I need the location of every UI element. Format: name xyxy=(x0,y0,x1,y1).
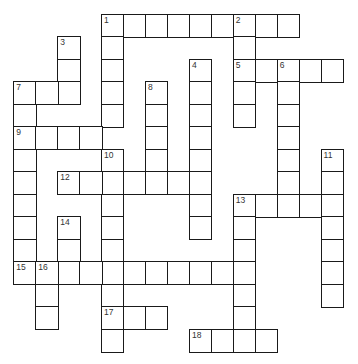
crossword-cell[interactable]: 10 xyxy=(101,149,124,173)
crossword-cell[interactable]: 12 xyxy=(57,171,80,195)
crossword-cell[interactable] xyxy=(277,104,300,128)
crossword-cell[interactable] xyxy=(79,171,102,195)
crossword-cell[interactable] xyxy=(233,284,256,308)
crossword-cell[interactable] xyxy=(255,14,278,38)
crossword-cell[interactable]: 16 xyxy=(35,261,58,285)
crossword-cell[interactable] xyxy=(101,171,124,195)
crossword-cell[interactable] xyxy=(123,306,146,330)
crossword-cell[interactable] xyxy=(79,261,102,285)
crossword-cell[interactable]: 6 xyxy=(277,59,300,83)
crossword-cell[interactable] xyxy=(277,126,300,150)
crossword-cell[interactable] xyxy=(13,149,36,173)
crossword-cell[interactable] xyxy=(255,329,278,353)
crossword-cell[interactable] xyxy=(57,81,80,105)
crossword-cell[interactable] xyxy=(35,126,58,150)
crossword-cell[interactable] xyxy=(13,194,36,218)
crossword-cell[interactable] xyxy=(145,149,168,173)
crossword-cell[interactable] xyxy=(145,171,168,195)
crossword-cell[interactable] xyxy=(255,59,278,83)
crossword-cell[interactable]: 18 xyxy=(189,329,212,353)
crossword-cell[interactable] xyxy=(189,194,212,218)
crossword-cell[interactable] xyxy=(145,104,168,128)
crossword-cell[interactable] xyxy=(145,261,168,285)
crossword-cell[interactable] xyxy=(233,329,256,353)
crossword-cell[interactable] xyxy=(277,194,300,218)
crossword-cell[interactable] xyxy=(277,81,300,105)
crossword-cell[interactable]: 7 xyxy=(13,81,36,105)
crossword-cell[interactable] xyxy=(321,284,344,308)
crossword-cell[interactable] xyxy=(189,81,212,105)
crossword-cell[interactable] xyxy=(321,194,344,218)
crossword-cell[interactable] xyxy=(189,104,212,128)
crossword-cell[interactable]: 15 xyxy=(13,261,36,285)
crossword-cell[interactable] xyxy=(79,126,102,150)
crossword-cell[interactable] xyxy=(57,59,80,83)
crossword-cell[interactable] xyxy=(101,239,124,263)
crossword-cell[interactable] xyxy=(277,171,300,195)
crossword-cell[interactable]: 1 xyxy=(101,14,124,38)
crossword-cell[interactable] xyxy=(299,194,322,218)
crossword-cell[interactable] xyxy=(277,14,300,38)
crossword-cell[interactable] xyxy=(13,239,36,263)
crossword-cell[interactable] xyxy=(321,261,344,285)
crossword-cell[interactable] xyxy=(123,14,146,38)
crossword-cell[interactable] xyxy=(101,36,124,60)
crossword-cell[interactable] xyxy=(211,329,234,353)
crossword-cell[interactable] xyxy=(277,149,300,173)
crossword-cell[interactable] xyxy=(101,261,124,285)
crossword-cell[interactable] xyxy=(145,126,168,150)
crossword-cell[interactable] xyxy=(123,171,146,195)
crossword-cell[interactable]: 8 xyxy=(145,81,168,105)
crossword-cell[interactable] xyxy=(211,261,234,285)
crossword-cell[interactable] xyxy=(101,329,124,353)
crossword-cell[interactable] xyxy=(167,14,190,38)
crossword-cell[interactable] xyxy=(189,14,212,38)
crossword-cell[interactable] xyxy=(233,81,256,105)
crossword-cell[interactable] xyxy=(167,261,190,285)
crossword-cell[interactable] xyxy=(321,171,344,195)
crossword-cell[interactable] xyxy=(189,216,212,240)
crossword-cell[interactable] xyxy=(233,36,256,60)
crossword-cell[interactable]: 13 xyxy=(233,194,256,218)
crossword-cell[interactable] xyxy=(145,306,168,330)
crossword-cell[interactable] xyxy=(101,81,124,105)
crossword-cell[interactable] xyxy=(101,194,124,218)
crossword-cell[interactable]: 3 xyxy=(57,36,80,60)
crossword-cell[interactable]: 4 xyxy=(189,59,212,83)
crossword-cell[interactable] xyxy=(101,104,124,128)
crossword-cell[interactable] xyxy=(57,239,80,263)
crossword-cell[interactable] xyxy=(145,14,168,38)
crossword-cell[interactable] xyxy=(189,126,212,150)
crossword-cell[interactable] xyxy=(233,104,256,128)
crossword-cell[interactable]: 9 xyxy=(13,126,36,150)
crossword-cell[interactable] xyxy=(101,284,124,308)
crossword-cell[interactable] xyxy=(211,14,234,38)
crossword-cell[interactable] xyxy=(13,104,36,128)
crossword-cell[interactable] xyxy=(255,194,278,218)
crossword-cell[interactable] xyxy=(57,126,80,150)
crossword-cell[interactable]: 14 xyxy=(57,216,80,240)
crossword-cell[interactable] xyxy=(189,261,212,285)
crossword-cell[interactable] xyxy=(233,261,256,285)
crossword-cell[interactable]: 11 xyxy=(321,149,344,173)
crossword-cell[interactable] xyxy=(189,171,212,195)
crossword-cell[interactable] xyxy=(101,59,124,83)
crossword-cell[interactable]: 5 xyxy=(233,59,256,83)
crossword-cell[interactable] xyxy=(35,284,58,308)
crossword-cell[interactable] xyxy=(233,216,256,240)
crossword-cell[interactable] xyxy=(13,171,36,195)
crossword-cell[interactable] xyxy=(57,261,80,285)
crossword-cell[interactable] xyxy=(35,306,58,330)
crossword-cell[interactable] xyxy=(101,216,124,240)
crossword-cell[interactable] xyxy=(123,261,146,285)
crossword-cell[interactable] xyxy=(233,306,256,330)
crossword-cell[interactable] xyxy=(233,239,256,263)
crossword-cell[interactable] xyxy=(189,149,212,173)
crossword-cell[interactable] xyxy=(13,216,36,240)
crossword-cell[interactable] xyxy=(167,171,190,195)
crossword-cell[interactable]: 2 xyxy=(233,14,256,38)
crossword-cell[interactable]: 17 xyxy=(101,306,124,330)
crossword-cell[interactable] xyxy=(321,216,344,240)
crossword-cell[interactable] xyxy=(321,239,344,263)
crossword-cell[interactable] xyxy=(35,81,58,105)
